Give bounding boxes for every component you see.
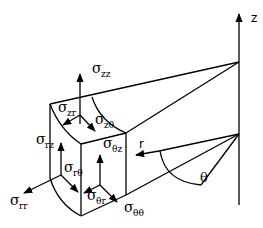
theta-label: θ	[200, 170, 208, 185]
svg-text:θr: θr	[96, 196, 106, 206]
svg-text:rz: rz	[45, 140, 54, 150]
sigma-rz-label: σ rz	[36, 131, 54, 150]
sigma-ztheta-label: σ zθ	[95, 111, 114, 130]
sigma-zz-label: σ zz	[92, 60, 111, 79]
r-label: r	[139, 137, 144, 151]
sigma-zr-label: σ zr	[58, 99, 77, 118]
sigma-thetaz-label: σ θz	[103, 135, 122, 154]
box-bottom-arc	[50, 178, 81, 216]
svg-text:zz: zz	[101, 69, 111, 79]
theta-arc	[160, 151, 201, 185]
sigma-ztheta-arrow	[80, 115, 95, 131]
sigma-rr-label: σ rr	[10, 192, 28, 211]
svg-text:θz: θz	[112, 144, 122, 154]
sigma-thetar-label: σ θr	[87, 187, 106, 206]
svg-text:θθ: θθ	[133, 208, 144, 218]
stress-element-diagram: z r θ σ zz σ zr σ zθ σ rz σ θz σ rθ σ rr…	[0, 0, 263, 228]
top-ray-upper	[50, 62, 239, 104]
svg-text:zr: zr	[67, 108, 77, 118]
svg-text:rθ: rθ	[73, 168, 83, 178]
sigma-rtheta-label: σ rθ	[64, 159, 83, 178]
top-ray-lower	[126, 62, 239, 133]
mid-ray-upper	[159, 134, 239, 151]
z-axis-label: z	[251, 11, 257, 25]
r-arrow	[136, 151, 159, 155]
sigma-thetatheta-label: σ θθ	[124, 199, 144, 218]
svg-text:rr: rr	[19, 201, 28, 211]
svg-text:zθ: zθ	[104, 120, 114, 130]
